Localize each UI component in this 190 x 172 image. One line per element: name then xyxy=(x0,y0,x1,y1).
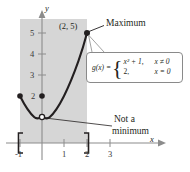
formula-callout-box: g(x) = { x² + 1, x ≠ 0 2, x = 0 xyxy=(86,52,183,83)
x-tick-label-minus1: -1 xyxy=(15,150,22,159)
y-axis-label: y xyxy=(45,4,49,13)
y-tick-label-4: 4 xyxy=(30,50,34,59)
formula-cases: x² + 1, x ≠ 0 2, x = 0 xyxy=(124,57,171,77)
graph-canvas xyxy=(0,0,190,172)
piecewise-function-figure: y x 5 4 3 2 -1 1 2 3 (2, 5) Maximum Not … xyxy=(0,0,190,172)
formula-case-1-expression: x² + 1, xyxy=(124,57,155,67)
formula-lhs: g(x) = xyxy=(92,63,111,72)
x-tick-label-3: 3 xyxy=(108,150,112,159)
x-axis-arrowhead xyxy=(158,140,166,147)
not-a-minimum-line-2: minimum xyxy=(112,127,149,137)
formula-brace: { xyxy=(112,59,123,76)
closed-point-minus1-2 xyxy=(17,93,23,99)
formula-case-1-condition: x ≠ 0 xyxy=(155,57,170,67)
leader-line-formula-b xyxy=(89,35,93,52)
y-tick-label-3: 3 xyxy=(30,71,34,80)
open-point-0-1 xyxy=(39,114,44,119)
formula-case-row-1: x² + 1, x ≠ 0 xyxy=(124,57,171,67)
formula-expression: g(x) = { x² + 1, x ≠ 0 2, x = 0 xyxy=(92,57,170,77)
y-tick-label-2: 2 xyxy=(31,92,35,101)
x-axis-label: x xyxy=(150,135,154,144)
x-tick-label-1: 1 xyxy=(62,150,66,159)
x-tick-label-2: 2 xyxy=(85,150,89,159)
y-tick-label-5: 5 xyxy=(30,29,34,38)
leader-line-formula-a xyxy=(89,35,105,52)
point-label-2-5: (2, 5) xyxy=(59,22,77,31)
formula-case-2-expression: 2, xyxy=(124,67,155,77)
closed-point-0-2 xyxy=(39,93,45,99)
formula-case-2-condition: x = 0 xyxy=(155,67,171,77)
maximum-callout-label: Maximum xyxy=(106,19,146,29)
formula-case-row-2: 2, x = 0 xyxy=(124,67,171,77)
leader-line-maximum xyxy=(89,26,104,32)
not-a-minimum-line-1: Not a xyxy=(114,115,135,125)
